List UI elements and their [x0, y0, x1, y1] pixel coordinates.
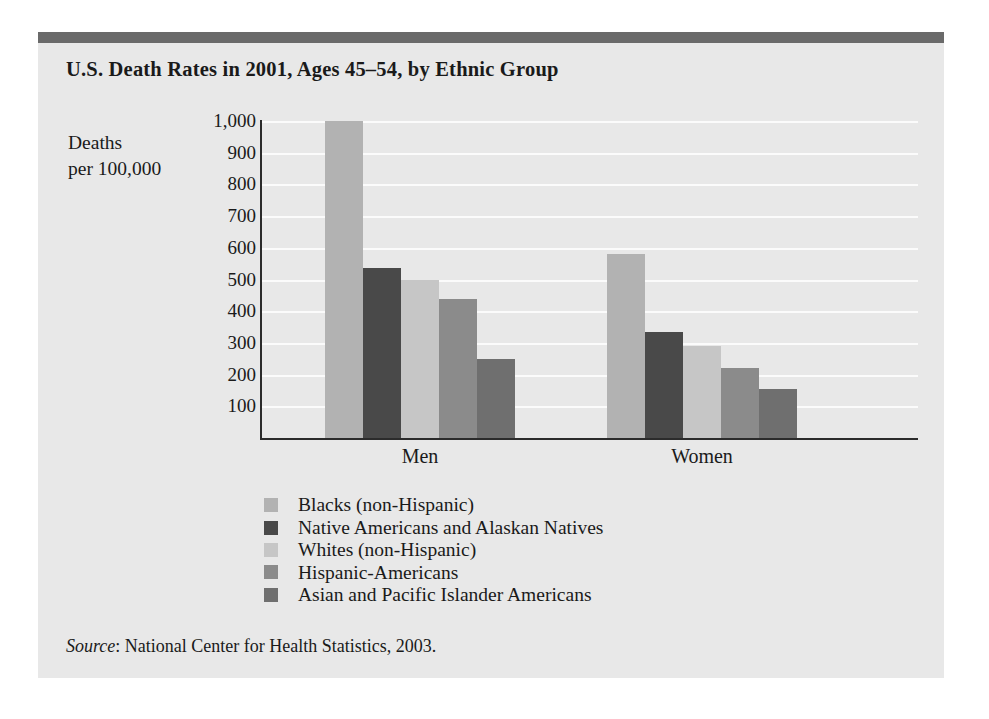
y-axis-tick-label: 100: [228, 395, 257, 417]
y-axis-caption-line1: Deaths: [68, 130, 161, 156]
card-accent-bar: [38, 32, 944, 43]
y-axis-caption: Deaths per 100,000: [68, 130, 161, 182]
chart-card: U.S. Death Rates in 2001, Ages 45–54, by…: [38, 32, 944, 678]
y-axis-tick-label: 700: [228, 205, 257, 227]
bar-group: [262, 121, 918, 438]
y-axis-tick-label: 200: [228, 364, 257, 386]
legend-item: Whites (non-Hispanic): [264, 539, 603, 561]
y-axis-tick-label: 400: [228, 300, 257, 322]
bar: [721, 368, 759, 438]
x-axis-category-label: Women: [671, 445, 733, 468]
y-axis-tick-label: 500: [228, 269, 257, 291]
source-note: Source: National Center for Health Stati…: [66, 636, 436, 657]
legend-label: Native Americans and Alaskan Natives: [298, 518, 603, 538]
legend-label: Whites (non-Hispanic): [298, 540, 476, 560]
legend: Blacks (non-Hispanic)Native Americans an…: [264, 494, 603, 606]
y-axis-tick-label: 800: [228, 173, 257, 195]
y-axis-tick-label: 300: [228, 332, 257, 354]
y-axis-tick-label: 1,000: [213, 110, 256, 132]
y-axis-tick-label: 900: [228, 142, 257, 164]
x-axis-line: [260, 438, 918, 440]
y-axis-tick-label: 600: [228, 237, 257, 259]
legend-label: Asian and Pacific Islander Americans: [298, 585, 591, 605]
source-label: Source: [66, 636, 115, 656]
plot-area: MenWomen: [262, 121, 918, 438]
y-axis-caption-line2: per 100,000: [68, 156, 161, 182]
legend-swatch: [264, 565, 278, 579]
bar: [759, 389, 797, 438]
legend-label: Hispanic-Americans: [298, 563, 458, 583]
legend-swatch: [264, 588, 278, 602]
x-axis-category-label: Men: [402, 445, 439, 468]
legend-item: Blacks (non-Hispanic): [264, 494, 603, 516]
legend-item: Hispanic-Americans: [264, 561, 603, 583]
source-text: : National Center for Health Statistics,…: [115, 636, 436, 656]
bar: [683, 346, 721, 438]
legend-swatch: [264, 543, 278, 557]
legend-swatch: [264, 498, 278, 512]
legend-item: Native Americans and Alaskan Natives: [264, 516, 603, 538]
bar: [607, 254, 645, 438]
legend-label: Blacks (non-Hispanic): [298, 495, 474, 515]
bar: [645, 332, 683, 438]
page-title: U.S. Death Rates in 2001, Ages 45–54, by…: [66, 58, 559, 81]
legend-item: Asian and Pacific Islander Americans: [264, 584, 603, 606]
legend-swatch: [264, 521, 278, 535]
